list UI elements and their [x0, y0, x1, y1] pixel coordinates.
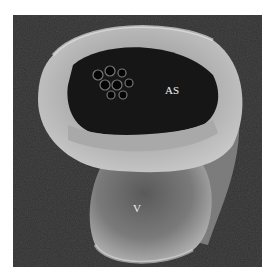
micrograph-shapes [13, 15, 262, 267]
label-as: AS [165, 85, 179, 96]
label-v: V [133, 203, 141, 214]
micrograph: AS V [13, 15, 262, 267]
